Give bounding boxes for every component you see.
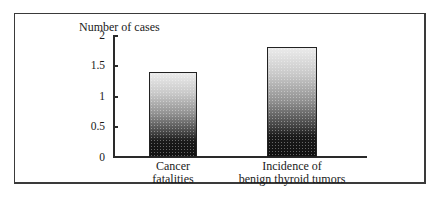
- y-tick-1-5: [113, 65, 118, 67]
- y-tick-label: 0.5: [75, 120, 105, 132]
- y-tick-0-5: [113, 126, 118, 128]
- y-tick-label: 1.5: [75, 59, 105, 71]
- y-tick-label: 2: [75, 29, 105, 41]
- bar-cancer-fatalities: [149, 72, 197, 157]
- y-tick-label: 0: [75, 151, 105, 163]
- y-tick-label: 1: [75, 90, 105, 102]
- y-tick-1: [113, 96, 118, 98]
- y-tick-2: [113, 35, 118, 37]
- bar-benign-thyroid-tumors: [267, 47, 317, 157]
- x-category-label-benign-thyroid-tumors: Incidence of benign thyroid tumors: [227, 160, 357, 186]
- x-category-label-cancer-fatalities: Cancer fatalities: [133, 160, 213, 186]
- x-label-line: fatalities: [133, 173, 213, 186]
- x-label-line: benign thyroid tumors: [227, 173, 357, 186]
